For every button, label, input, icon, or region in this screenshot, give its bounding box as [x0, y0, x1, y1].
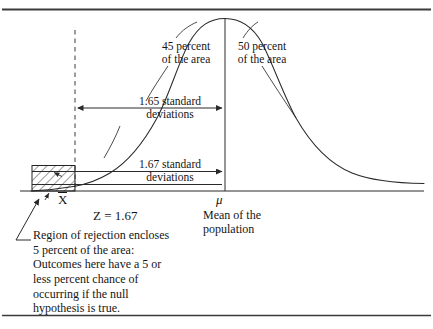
label-mu-symbol: μ	[216, 192, 223, 207]
label-z-statistic: Z = 1.67	[93, 208, 138, 223]
label-50-percent-of-area: 50 percent of the area	[228, 40, 296, 67]
label-region-of-rejection-note: Region of rejection encloses 5 percent o…	[33, 228, 233, 316]
label-165-standard-deviations: 1.65 standard deviations	[110, 95, 230, 122]
leader-line-50-to-curve	[262, 66, 296, 118]
leader-line-165-to-167	[104, 126, 120, 158]
xbar-tick-arrow	[45, 193, 49, 200]
figure-container: 45 percent of the area 50 percent of the…	[0, 0, 433, 329]
region-of-rejection-hatch	[32, 166, 75, 192]
label-45-percent-of-area: 45 percent of the area	[152, 40, 220, 67]
label-x-bar-symbol: X	[58, 192, 67, 207]
label-167-standard-deviations: 1.67 standard deviations	[110, 158, 230, 185]
x-bar-glyph: X	[58, 192, 67, 207]
